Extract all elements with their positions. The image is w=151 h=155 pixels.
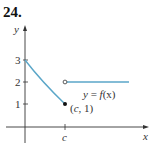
- problem-number: 24.: [3, 4, 22, 20]
- closed-point: [63, 102, 67, 106]
- decreasing-curve: [25, 60, 65, 104]
- y-tick-label-2: 2: [15, 76, 21, 88]
- function-graph: 24. y x 3 2 1 c y = f(x) (c, 1): [0, 0, 151, 155]
- point-label: (c, 1): [70, 102, 94, 115]
- x-tick-label-c: c: [62, 131, 67, 143]
- y-axis-label: y: [13, 23, 19, 35]
- open-point: [63, 80, 67, 84]
- x-axis-arrow-icon: [143, 125, 149, 129]
- y-axis-arrow-icon: [23, 25, 27, 31]
- x-axis-label: x: [142, 130, 148, 142]
- y-tick-label-1: 1: [15, 98, 21, 110]
- function-label: y = f(x): [82, 88, 116, 101]
- y-tick-label-3: 3: [15, 54, 21, 66]
